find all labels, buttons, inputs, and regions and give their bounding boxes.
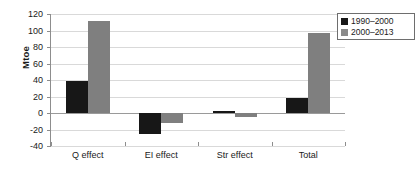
y-axis-tick-label: 120: [3, 10, 43, 19]
x-axis-tick: [272, 142, 273, 146]
y-axis-tick: [47, 31, 51, 32]
bar: [139, 113, 161, 134]
y-axis-tick: [47, 64, 51, 65]
x-axis-tick: [51, 142, 52, 146]
bar: [213, 111, 235, 113]
plot-area: [51, 14, 345, 146]
x-axis-category-label: EI effect: [121, 150, 201, 160]
bar: [161, 113, 183, 123]
bar: [66, 81, 88, 113]
bar-chart: Mtoe 120100806040200-20-40 Q effectEI ef…: [0, 0, 420, 172]
y-axis-tick-label: -20: [3, 126, 43, 135]
y-axis-tick: [47, 14, 51, 15]
gridline: [51, 130, 345, 131]
bar: [308, 33, 330, 113]
black-square-icon: [341, 18, 348, 25]
gridline: [51, 14, 345, 15]
legend-item[interactable]: 2000–2013: [341, 27, 411, 38]
y-axis-tick: [47, 97, 51, 98]
y-axis-tick-label: 20: [3, 93, 43, 102]
zero-line: [47, 113, 345, 114]
gridline: [51, 146, 345, 147]
y-axis-tick: [47, 146, 51, 147]
x-axis-tick: [345, 142, 346, 146]
legend-item[interactable]: 1990–2000: [341, 16, 411, 27]
y-axis-tick: [47, 113, 51, 114]
x-axis-category-label: Q effect: [48, 150, 128, 160]
y-axis-tick-label: -40: [3, 142, 43, 151]
y-axis-tick-label: 60: [3, 60, 43, 69]
y-axis-tick: [47, 47, 51, 48]
x-axis-tick: [198, 142, 199, 146]
y-axis-tick: [47, 80, 51, 81]
y-axis-title: Mtoe: [20, 35, 31, 81]
y-axis-tick-label: 80: [3, 43, 43, 52]
x-axis-category-label: Total: [268, 150, 348, 160]
bar: [88, 21, 110, 113]
legend: 1990–2000 2000–2013: [337, 13, 415, 40]
y-axis-tick-label: 100: [3, 27, 43, 36]
legend-item-label: 2000–2013: [351, 28, 394, 37]
bar: [286, 98, 308, 113]
x-axis-tick: [125, 142, 126, 146]
y-axis-tick-label: 0: [3, 109, 43, 118]
x-axis-category-label: Str effect: [195, 150, 275, 160]
legend-item-label: 1990–2000: [351, 17, 394, 26]
bar: [235, 113, 257, 117]
grey-square-icon: [341, 29, 348, 36]
y-axis-tick: [47, 130, 51, 131]
y-axis-tick-label: 40: [3, 76, 43, 85]
